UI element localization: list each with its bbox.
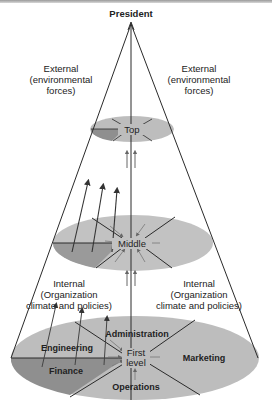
external-left-label: External (environmental forces): [25, 63, 97, 96]
external-right-line-3: forces): [163, 85, 235, 96]
internal-left-line-3: climate and policies): [20, 300, 118, 311]
dept-finance: Finance: [46, 366, 86, 377]
internal-right-line-3: climate and policies): [150, 300, 248, 311]
level-first-line-2: level: [122, 358, 150, 368]
internal-right-line-2: (Organization: [150, 289, 248, 300]
internal-left-label: Internal (Organization climate and polic…: [20, 278, 118, 311]
external-left-line-3: forces): [25, 85, 97, 96]
external-right-line-1: External: [163, 63, 235, 74]
internal-left-line-2: (Organization: [20, 289, 118, 300]
external-left-line-1: External: [25, 63, 97, 74]
external-right-label: External (environmental forces): [163, 63, 235, 96]
dept-engineering: Engineering: [38, 343, 96, 354]
dept-administration: Administration: [104, 329, 170, 340]
level-middle-label: Middle: [112, 238, 152, 249]
external-right-line-2: (environmental: [163, 74, 235, 85]
internal-left-line-1: Internal: [20, 278, 118, 289]
dept-operations: Operations: [108, 382, 164, 393]
dept-marketing: Marketing: [178, 353, 230, 364]
internal-right-label: Internal (Organization climate and polic…: [150, 278, 248, 311]
level-first-label: First level: [122, 348, 150, 368]
internal-right-line-1: Internal: [150, 278, 248, 289]
external-left-line-2: (environmental: [25, 74, 97, 85]
president-label: President: [104, 8, 158, 19]
level-top-label: Top: [118, 124, 146, 135]
